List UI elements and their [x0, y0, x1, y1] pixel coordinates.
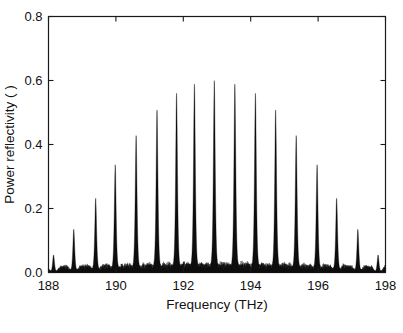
- y-axis-tick-labels: 0.00.20.40.60.8: [24, 9, 42, 280]
- y-tick-label: 0.6: [24, 73, 42, 88]
- x-axis-tick-labels: 188190192194196198: [38, 278, 397, 293]
- data-trace: [49, 81, 386, 273]
- y-tick-label: 0.2: [24, 201, 42, 216]
- spectrum-trace: [49, 81, 386, 273]
- plot-frame: [49, 17, 386, 273]
- y-axis-title: Power reflectivity ( ): [2, 85, 17, 204]
- x-tick-label: 190: [105, 278, 127, 293]
- x-tick-label: 198: [375, 278, 397, 293]
- chart-canvas: 188190192194196198 0.00.20.40.60.8 Frequ…: [0, 0, 403, 333]
- x-tick-label: 194: [240, 278, 262, 293]
- x-tick-label: 196: [307, 278, 329, 293]
- y-tick-label: 0.8: [24, 9, 42, 24]
- figure: 188190192194196198 0.00.20.40.60.8 Frequ…: [0, 0, 403, 333]
- x-axis-ticks: [49, 17, 386, 273]
- reflectivity-spectrum-chart: 188190192194196198 0.00.20.40.60.8 Frequ…: [0, 0, 403, 333]
- y-tick-label: 0.0: [24, 265, 42, 280]
- x-axis-title: Frequency (THz): [166, 297, 267, 312]
- y-axis-ticks: [49, 17, 386, 273]
- x-tick-label: 192: [172, 278, 194, 293]
- y-tick-label: 0.4: [24, 137, 42, 152]
